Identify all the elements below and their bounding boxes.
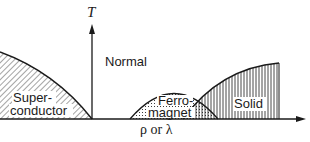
y-axis-label: T <box>87 4 97 20</box>
ferromagnet-label-line2: magnet <box>148 105 192 120</box>
solid-label-text: Solid <box>234 96 263 111</box>
normal-label: Normal <box>105 54 147 69</box>
solid-label: Solid <box>233 96 267 111</box>
x-axis-label: ρ or λ <box>140 122 173 137</box>
phase-diagram: T ρ or λ Normal Super- conductor Ferro- … <box>0 0 310 142</box>
superconductor-label-line2: conductor <box>10 103 68 118</box>
ferromagnet-label: Ferro- magnet <box>147 93 195 120</box>
x-axis-arrow-icon <box>296 116 306 122</box>
y-axis-arrow-icon <box>89 24 95 34</box>
